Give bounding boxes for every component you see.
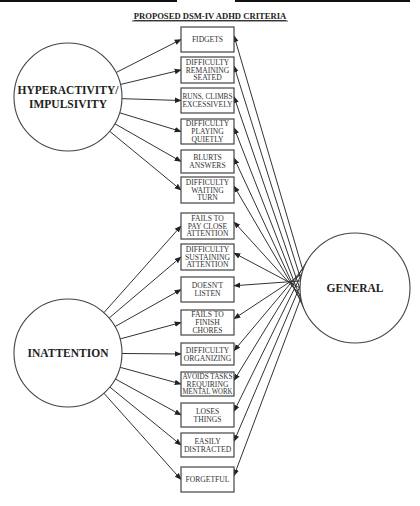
- general-edge: [234, 261, 307, 380]
- criterion-box: DIFFICULTYSUSTAININGATTENTION: [181, 244, 234, 270]
- criterion-label: ORGANIZING: [184, 354, 232, 363]
- criterion-box: AVOIDS TASKSREQUIRINGMENTAL WORK: [181, 372, 234, 397]
- inattention-edge: [122, 353, 181, 354]
- inattention-edge: [120, 323, 181, 339]
- hyperactivity-edge: [120, 113, 181, 132]
- criterion-box: FORGETFUL: [181, 467, 234, 492]
- hyperactivity-node: HYPERACTIVITY/IMPULSIVITY: [14, 43, 122, 151]
- criteria-boxes: FIDGETSDIFFICULTYREMAININGSEATEDRUNS, CL…: [181, 27, 234, 492]
- criterion-label: CHORES: [193, 326, 223, 335]
- adhd-criteria-diagram: PROPOSED DSM-IV ADHD CRITERIA HYPERACTIV…: [0, 0, 420, 506]
- top-border-bars: [0, 0, 410, 2]
- inattention-node: INATTENTION: [14, 299, 122, 407]
- criterion-box: BLURTSANSWERS: [181, 150, 234, 173]
- inattention-edge: [104, 226, 181, 313]
- hyperactivity-edge: [115, 124, 181, 162]
- inattention-edge: [115, 290, 181, 327]
- criterion-label: SEATED: [193, 73, 222, 82]
- criterion-box: DIFFICULTYREMAININGSEATED: [181, 57, 234, 83]
- top-bar: [235, 0, 410, 2]
- criterion-label: ANSWERS: [189, 161, 225, 170]
- inattention-edge: [104, 393, 181, 479]
- criterion-box: DIFFICULTYWAITINGTURN: [181, 177, 234, 203]
- general-label: GENERAL: [327, 282, 384, 294]
- criterion-label: QUIETLY: [191, 135, 224, 144]
- criterion-label: FORGETFUL: [186, 475, 230, 484]
- general-node: GENERAL: [300, 233, 410, 343]
- criterion-box: RUNS, CLIMBSEXCESSIVELY: [181, 88, 234, 113]
- criterion-label: FIDGETS: [192, 35, 223, 44]
- criterion-label: THINGS: [194, 415, 222, 424]
- criterion-box: EASILYDISTRACTED: [181, 433, 234, 457]
- general-edge: [234, 128, 307, 315]
- inattention-label: INATTENTION: [28, 347, 110, 359]
- criterion-box: FAILS TOPAY CLOSEATTENTION: [181, 213, 234, 239]
- criterion-label: MENTAL WORK: [183, 387, 233, 396]
- general-edge: [234, 255, 311, 411]
- criterion-label: ATTENTION: [186, 260, 229, 269]
- criterion-label: EXCESSIVELY: [183, 100, 234, 109]
- inattention-edge: [115, 379, 181, 415]
- criterion-label: DISTRACTED: [184, 445, 232, 454]
- criterion-box: DIFFICULTYORGANIZING: [181, 343, 234, 365]
- hyperactivity-edge: [110, 131, 181, 190]
- general-edge: [234, 274, 302, 319]
- top-bar: [0, 0, 177, 2]
- hyperactivity-circle: [14, 43, 122, 151]
- criterion-label: TURN: [197, 193, 218, 202]
- hyperactivity-edge: [122, 99, 181, 101]
- criterion-box: FAILS TOFINISHCHORES: [181, 310, 234, 335]
- criterion-label: ATTENTION: [186, 229, 229, 238]
- hyperactivity-label: HYPERACTIVITY/: [18, 84, 120, 96]
- criterion-box: DOESN'TLISTEN: [181, 277, 234, 302]
- hyperactivity-edge: [121, 70, 181, 84]
- hyperactivity-label: IMPULSIVITY: [29, 98, 108, 110]
- general-edge: [234, 267, 304, 350]
- inattention-edge: [120, 367, 181, 384]
- criterion-box: DIFFICULTYPLAYINGQUIETLY: [181, 119, 234, 144]
- criterion-box: LOSESTHINGS: [181, 403, 234, 427]
- criterion-box: FIDGETS: [181, 27, 234, 52]
- hyperactivity-edge: [116, 40, 181, 73]
- diagram-title: PROPOSED DSM-IV ADHD CRITERIA: [134, 11, 287, 21]
- criterion-label: LISTEN: [194, 289, 221, 298]
